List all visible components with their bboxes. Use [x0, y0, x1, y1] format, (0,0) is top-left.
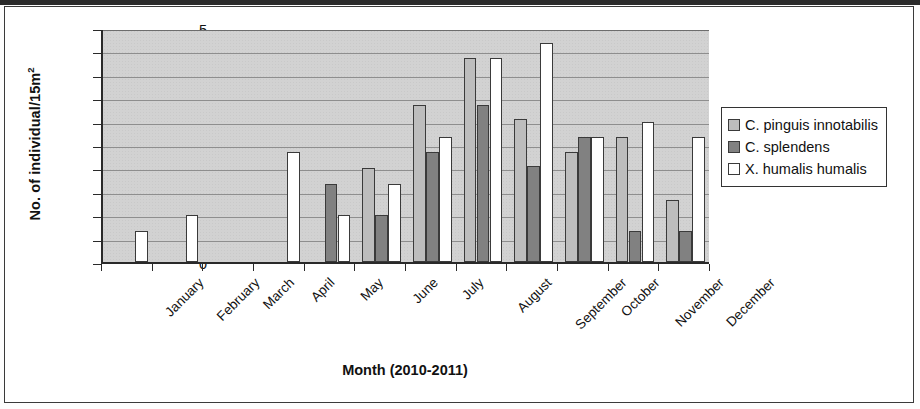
- bar-group: [306, 30, 357, 262]
- x-axis-tick-mark: [506, 264, 507, 271]
- plot-area: [101, 30, 709, 264]
- bar: [616, 137, 629, 262]
- bar: [490, 58, 503, 262]
- bar-group: [660, 30, 711, 262]
- bar: [338, 215, 351, 262]
- legend-swatch: [728, 163, 740, 175]
- bar-group: [610, 30, 661, 262]
- x-axis-title: Month (2010-2011): [205, 362, 605, 378]
- bar-group: [559, 30, 610, 262]
- bar: [692, 137, 705, 262]
- y-axis-tick-mark: [93, 30, 101, 31]
- x-axis-tick-label: March: [260, 275, 297, 312]
- legend-label: X. humalis humalis: [745, 161, 867, 177]
- bar: [325, 184, 338, 262]
- y-axis-tick-mark: [93, 100, 101, 101]
- x-axis-tick-label: February: [214, 275, 263, 324]
- legend-item: C. splendens: [728, 136, 878, 158]
- bar: [439, 137, 452, 262]
- bar: [426, 152, 439, 262]
- bar: [629, 231, 642, 262]
- bar: [135, 231, 148, 262]
- x-axis-tick-mark: [152, 264, 153, 271]
- x-axis-tick-label: May: [358, 275, 387, 304]
- bar-group: [356, 30, 407, 262]
- x-axis-tick-mark: [304, 264, 305, 271]
- x-axis-tick-mark: [709, 264, 710, 271]
- x-axis-tick-mark: [405, 264, 406, 271]
- bar: [477, 105, 490, 262]
- y-axis-tick-mark: [93, 264, 101, 265]
- bar-group: [458, 30, 509, 262]
- x-axis-tick-mark: [202, 264, 203, 271]
- bar-group: [407, 30, 458, 262]
- bar: [666, 200, 679, 262]
- x-axis-tick-mark: [101, 264, 102, 271]
- x-axis-tick-label: June: [410, 275, 441, 306]
- x-axis-tick-mark: [658, 264, 659, 271]
- legend-item: C. pinguis innotabilis: [728, 114, 878, 136]
- y-axis-title: No. of individual/15m2: [25, 29, 43, 259]
- bar: [679, 231, 692, 262]
- figure-frame: No. of individual/15m2 00.511.522.533.54…: [4, 6, 914, 403]
- bar: [186, 215, 199, 262]
- bar: [642, 122, 655, 262]
- top-edge-band: [0, 0, 920, 5]
- x-axis-tick-label: April: [308, 275, 338, 305]
- x-axis-tick-label: September: [572, 275, 629, 332]
- y-axis-tick-mark: [93, 147, 101, 148]
- bar: [527, 166, 540, 262]
- x-axis-tick-mark: [354, 264, 355, 271]
- bar: [388, 184, 401, 262]
- legend-label: C. pinguis innotabilis: [745, 117, 878, 133]
- legend: C. pinguis innotabilisC. splendensX. hum…: [721, 107, 887, 187]
- x-axis-tick-mark: [608, 264, 609, 271]
- x-axis-tick-label: July: [459, 275, 487, 303]
- y-axis-tick-mark: [93, 77, 101, 78]
- legend-label: C. splendens: [745, 139, 830, 155]
- legend-item: X. humalis humalis: [728, 158, 878, 180]
- x-axis-tick-label: December: [723, 275, 778, 330]
- y-axis-tick-mark: [93, 53, 101, 54]
- bar: [375, 215, 388, 262]
- x-axis-tick-label: August: [515, 275, 555, 315]
- bar: [413, 105, 426, 262]
- bar-group: [103, 30, 154, 262]
- x-axis-tick-mark: [253, 264, 254, 271]
- x-axis-tick-label: November: [673, 275, 728, 330]
- bar-group: [255, 30, 306, 262]
- bar: [540, 43, 553, 262]
- y-axis-tick-mark: [93, 194, 101, 195]
- legend-swatch: [728, 119, 740, 131]
- bar: [565, 152, 578, 262]
- bar-group: [508, 30, 559, 262]
- bar: [514, 119, 527, 262]
- x-axis-tick-label: January: [162, 275, 207, 320]
- y-axis-tick-mark: [93, 170, 101, 171]
- chart-screenshot: No. of individual/15m2 00.511.522.533.54…: [0, 0, 920, 409]
- y-axis-title-text: No. of individual/15m: [27, 73, 43, 221]
- legend-swatch: [728, 141, 740, 153]
- x-axis-tick-mark: [557, 264, 558, 271]
- y-axis-tick-mark: [93, 124, 101, 125]
- bar: [464, 58, 477, 262]
- bar-group: [154, 30, 205, 262]
- bar-group: [204, 30, 255, 262]
- bar: [362, 168, 375, 262]
- bar: [591, 137, 604, 262]
- y-axis-tick-mark: [93, 241, 101, 242]
- x-axis-tick-mark: [456, 264, 457, 271]
- bar: [578, 137, 591, 262]
- y-axis-tick-mark: [93, 217, 101, 218]
- bar: [287, 152, 300, 262]
- y-axis-title-superscript: 2: [25, 67, 36, 72]
